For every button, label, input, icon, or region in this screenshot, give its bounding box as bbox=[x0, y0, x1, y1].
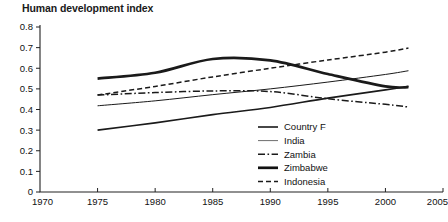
x-axis-ticks: 19701975198019851990199520002005 bbox=[32, 188, 448, 207]
series-line-india bbox=[98, 71, 409, 106]
y-tick-label: 0.7 bbox=[20, 42, 33, 53]
legend-label-country-f: Country F bbox=[284, 121, 326, 132]
x-tick-label: 1990 bbox=[260, 196, 281, 207]
y-tick-label: 0.2 bbox=[20, 145, 33, 156]
x-tick-label: 1975 bbox=[87, 196, 108, 207]
x-tick-label: 2000 bbox=[375, 196, 396, 207]
y-tick-label: 0.6 bbox=[20, 63, 33, 74]
y-tick-label: 0.4 bbox=[20, 104, 33, 115]
series-line-zimbabwe bbox=[98, 58, 409, 88]
legend-label-india: India bbox=[284, 135, 305, 146]
y-tick-label: 0.3 bbox=[20, 125, 33, 136]
plot-area: 00.10.20.30.40.50.60.70.8 19701975198019… bbox=[0, 0, 448, 222]
legend-label-zambia: Zambia bbox=[284, 149, 316, 160]
y-tick-label: 0.5 bbox=[20, 83, 33, 94]
legend-label-zimbabwe: Zimbabwe bbox=[284, 162, 328, 173]
series-line-indonesia bbox=[98, 48, 409, 95]
x-tick-label: 1985 bbox=[202, 196, 223, 207]
chart-legend: Country FIndiaZambiaZimbabweIndonesia bbox=[258, 121, 328, 186]
human-development-index-chart: Human development index 00.10.20.30.40.5… bbox=[0, 0, 448, 222]
axes bbox=[40, 25, 443, 192]
x-tick-label: 1980 bbox=[145, 196, 166, 207]
y-axis-ticks: 00.10.20.30.40.50.60.70.8 bbox=[20, 21, 40, 197]
x-tick-label: 1995 bbox=[317, 196, 338, 207]
y-tick-label: 0.8 bbox=[20, 21, 33, 32]
axis-lines bbox=[40, 25, 443, 192]
data-series bbox=[98, 48, 409, 130]
legend-label-indonesia: Indonesia bbox=[284, 176, 326, 187]
x-tick-label: 1970 bbox=[32, 196, 53, 207]
x-tick-label: 2005 bbox=[427, 196, 448, 207]
y-tick-label: 0.1 bbox=[20, 166, 33, 177]
